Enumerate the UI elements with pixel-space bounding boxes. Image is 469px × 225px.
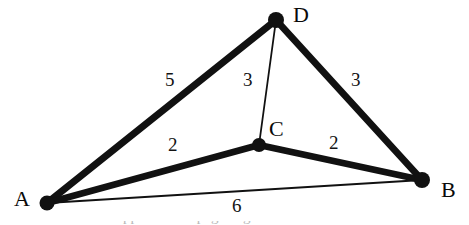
vertex-label-b: B xyxy=(441,179,456,201)
edge-weight-ad: 5 xyxy=(165,70,175,89)
graph-diagram: A B C D 5 3 2 2 3 6 clipped text at page… xyxy=(0,0,469,225)
edges-layer xyxy=(47,20,422,203)
edge-ad xyxy=(47,20,276,203)
vertex-label-a: A xyxy=(14,188,30,210)
vertex-dot-d xyxy=(268,12,284,28)
vertex-label-d: D xyxy=(293,4,309,26)
vertex-dot-c xyxy=(252,138,266,152)
edge-weight-db: 3 xyxy=(351,70,361,89)
edge-weight-ac: 2 xyxy=(168,135,178,154)
edge-weight-dc: 3 xyxy=(243,70,253,89)
vertices-layer xyxy=(40,12,431,211)
vertex-label-c: C xyxy=(269,118,284,140)
vertex-dot-a xyxy=(40,196,55,211)
vertex-dot-b xyxy=(414,172,430,188)
graph-canvas xyxy=(0,0,469,225)
edge-weight-cb: 2 xyxy=(329,133,339,152)
edge-weight-ab: 6 xyxy=(232,196,242,215)
